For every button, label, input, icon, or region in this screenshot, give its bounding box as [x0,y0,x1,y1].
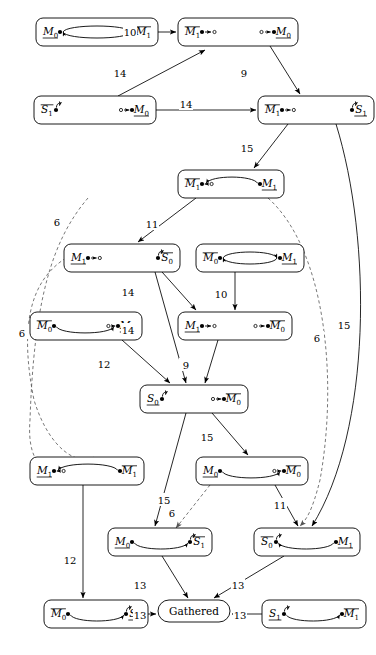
filled-dot [274,540,278,544]
node-m0-m1bar-lens[interactable]: M0M1 [36,18,158,46]
filled-dot [278,256,282,260]
edge-weight: 13 [234,610,247,621]
filled-dot [282,469,286,473]
filled-dot [52,324,56,328]
filled-dot [340,612,344,616]
edge-weight: 10 [124,27,137,38]
open-dot [260,30,263,33]
node-m1bar-m0-split[interactable]: M1M0 [178,18,298,46]
edge-n1-n2-label: 10 [123,25,137,38]
node-label: Gathered [169,605,219,617]
filled-dot [218,469,222,473]
node-m1-s0bar[interactable]: M1S0 [64,244,180,272]
filled-dot [116,324,120,328]
edge-n6-n9 [162,272,196,310]
node-m1bar-s1[interactable]: M1S1 [258,96,374,124]
edge-dashed-right-label: 6 [310,331,324,344]
open-dot [62,469,65,472]
edge-weight: 15 [201,432,214,443]
filled-dot [280,108,284,112]
filled-dot [188,540,192,544]
edge-n7-n9-label: 10 [214,287,228,300]
diagram-canvas: M0M1M1M0S1M0M1S1M1M1M1S0M0M1M0M0M1M0S0M0… [0,0,376,655]
filled-dot [200,324,204,328]
edge-weight: 12 [64,555,77,566]
node-m1-m0bar-split[interactable]: M1M0 [178,312,292,340]
node-m0bar-m1-lens[interactable]: M0M1 [196,244,304,272]
edge-weight: 14 [180,99,193,110]
edge-n9-n10 [205,340,218,383]
node-gathered[interactable]: Gathered [158,600,230,622]
edge-weight: 11 [274,500,287,511]
edge-weight: 15 [158,495,171,506]
edge-n4-n14-curve [312,124,361,526]
filled-dot [200,182,204,186]
edge-n13-gathered-label: 13 [133,578,147,591]
node-s0bar-m1-arc[interactable]: S0M1 [254,528,360,556]
edge-weight: 6 [169,508,175,519]
edge-n6-n9-label: 14 [121,285,135,298]
open-dot [292,108,295,111]
edge-weight: 6 [19,328,25,339]
open-dot [254,324,257,327]
edge-dashed-left-upper-label: 6 [50,215,64,228]
edge-dashed-left-lower [28,258,94,460]
open-dot [98,256,101,259]
filled-dot [118,469,122,473]
edge-n8-n10 [122,340,170,383]
open-dot [273,469,276,472]
edge-n12-n14-label: 11 [273,498,287,511]
open-dot [213,30,216,33]
edge-n13-gathered [162,556,188,598]
edge-n4-n5 [254,124,288,168]
open-dot [210,182,213,185]
filled-dot [272,30,276,34]
edge-n16-gathered-label: 13 [233,608,247,621]
node-s0-m0bar[interactable]: S0M0 [140,385,248,413]
filled-dot [218,256,222,260]
edge-n10-n13-label: 15 [157,493,171,506]
filled-dot [52,469,56,473]
node-s1-m1bar-arc[interactable]: S1M1 [262,600,366,628]
filled-dot [350,108,354,112]
edge-weight: 10 [215,289,228,300]
edge-n3-n4-label: 14 [179,97,193,110]
filled-dot [58,30,62,34]
edge-n2-n4-label: 9 [237,66,251,79]
edge-n15-gathered-label: 13 [133,608,147,621]
filled-dot [334,540,338,544]
edge-weight: 13 [134,580,147,591]
edge-n10-n12 [212,413,248,455]
edge-weight: 9 [241,68,247,79]
filled-dot [160,397,164,401]
filled-dot [222,397,226,401]
edge-weight: 14 [122,287,135,298]
edge-n14-gathered [214,556,284,598]
filled-dot [54,108,58,112]
edge-weight: 9 [183,360,189,371]
edge-n4-n14-curve-label: 15 [337,318,351,331]
edge-weight: 15 [338,320,351,331]
edge-weight: 15 [241,143,254,154]
edge-n4-n5-label: 15 [240,141,254,154]
edge-dashed-n12-n13 [176,485,210,528]
filled-dot [130,108,134,112]
edge-weight: 14 [122,325,135,336]
filled-dot [124,612,128,616]
node-m0-m0bar-arc[interactable]: M0M0 [196,457,308,485]
filled-dot [258,182,262,186]
edge-n14-gathered-label: 13 [231,578,245,591]
filled-dot [130,540,134,544]
node-m0bar-s0-arc[interactable]: M0S0 [44,600,148,628]
edge-n9-n10-label: 9 [179,358,193,371]
edge-weight: 13 [134,610,147,621]
edge-n10-n12-label: 15 [200,430,214,443]
edge-dashed-left-lower-label: 6 [15,326,29,339]
node-s1bar-m0[interactable]: S1M0 [34,96,156,124]
node-m1bar-m1-arc[interactable]: M1M1 [178,170,284,198]
diagram-svg: M0M1M1M0S1M0M1S1M1M1M1S0M0M1M0M0M1M0S0M0… [0,0,376,655]
node-m0-s1bar-arc[interactable]: M0S1 [108,528,212,556]
filled-dot [282,612,286,616]
node-m1-m1bar-arc[interactable]: M1M1 [30,457,144,485]
edge-weight: 12 [98,359,111,370]
